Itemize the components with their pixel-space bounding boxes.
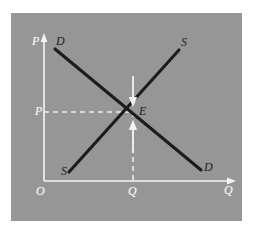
demand-curve-bottom-label: D: [204, 161, 213, 173]
supply-curve: [69, 50, 179, 172]
x-axis-label: Q: [224, 184, 233, 196]
demand-curve-top-label: D: [56, 35, 65, 47]
supply-curve-bottom-label: S: [61, 165, 67, 177]
supply-curve-top-label: S: [181, 36, 187, 48]
equilibrium-price-tick-label: P: [35, 105, 42, 117]
equilibrium-point-label: E: [139, 105, 146, 117]
figure-root: P Q O P Q D D S S E: [0, 0, 253, 232]
demand-curve: [55, 49, 201, 170]
x-axis: [44, 178, 236, 185]
origin-label: O: [36, 185, 45, 197]
equilibrium-quantity-tick-label: Q: [128, 185, 137, 197]
chart-canvas: [11, 13, 242, 221]
shortage-arrow-up-icon: [129, 120, 137, 153]
supply-demand-chart-panel: P Q O P Q D D S S E: [11, 13, 242, 221]
y-axis-label: P: [32, 35, 39, 47]
